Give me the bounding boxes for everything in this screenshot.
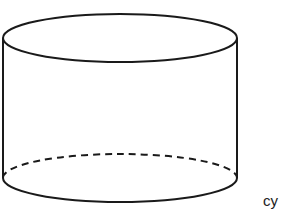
cylinder-drawing	[0, 0, 281, 221]
cylinder-diagram	[0, 0, 281, 221]
bottom-hidden-edge	[3, 154, 237, 178]
top-face	[3, 14, 237, 62]
caption-label: cy	[263, 192, 278, 209]
bottom-front-edge	[3, 178, 237, 202]
